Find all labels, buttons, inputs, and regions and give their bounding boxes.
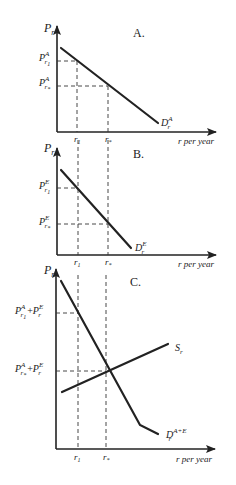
panel-b-y-tick-r1: PEr1 [38,178,50,195]
panel-c-x-tick-rstar: r* [103,452,110,463]
panel-a-y-axis-label: Pr [43,21,55,37]
panel-c-x-axis-label: r per year [176,454,212,464]
panel-a-y-tick-r1: PAr1 [38,50,50,67]
panel-b-x-tick-r1: r1 [74,257,81,268]
panel-a-x-tick-r1: r1 [74,134,81,145]
panel-a-demand-label: DAr [160,115,173,131]
panel-b-y-tick-rstar: PEr* [38,214,50,231]
panel-c-x-tick-r1: r1 [74,452,81,463]
panel-b: Pr B. DEr PEr1 PEr* r1 r* r per year [38,140,216,269]
panel-b-x-axis-label: r per year [178,259,214,269]
panel-a: Pr A. DAr PAr1 PAr* r1 r* r per year [38,21,216,146]
panel-b-y-axis-label: Pr [43,141,55,157]
panel-c: Pr C. Sr DA+Er PAr1+PEr PAr*+PEr r1 r* r… [14,263,215,464]
panel-b-demand-curve [61,170,131,248]
panel-b-x-tick-rstar: r* [105,257,112,268]
panel-b-demand-label: DEr [134,240,147,256]
panel-a-title: A. [133,26,145,40]
demand-supply-diagram: Pr A. DAr PAr1 PAr* r1 r* r per year Pr … [0,0,236,485]
panel-b-title: B. [133,147,144,161]
panel-a-y-tick-rstar: PAr* [38,75,50,92]
panel-c-y-tick-rstar: PAr*+PEr [14,361,44,378]
panel-c-demand-curve [61,281,158,434]
panel-c-y-tick-r1: PAr1+PEr [14,303,44,320]
panel-a-x-axis-label: r per year [178,136,214,146]
panel-c-demand-label: DA+Er [165,427,187,443]
panel-c-supply-label: Sr [175,342,183,356]
panel-c-y-axis-label: Pr [43,263,55,279]
panel-c-title: C. [130,275,141,289]
panel-a-demand-curve [61,48,158,123]
